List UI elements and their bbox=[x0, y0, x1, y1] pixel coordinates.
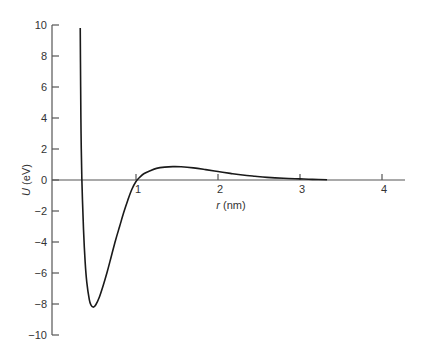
y-tick-label: −8 bbox=[34, 298, 47, 310]
y-tick-label: 6 bbox=[41, 81, 47, 93]
y-tick-label: 0 bbox=[41, 174, 47, 186]
y-tick-label: 8 bbox=[41, 50, 47, 62]
x-tick-label: 3 bbox=[299, 183, 305, 195]
y-tick-label: 10 bbox=[35, 19, 47, 31]
x-axis-label: r (nm) bbox=[216, 199, 245, 211]
x-tick-label: 1 bbox=[135, 183, 141, 195]
y-tick-label: −4 bbox=[34, 236, 47, 248]
x-tick-label: 4 bbox=[381, 183, 387, 195]
y-tick-label: −6 bbox=[34, 267, 47, 279]
y-axis-label: U (eV) bbox=[20, 164, 32, 196]
y-tick-label: 2 bbox=[41, 143, 47, 155]
potential-curve bbox=[80, 28, 327, 307]
y-tick-label: −2 bbox=[34, 205, 47, 217]
y-tick-label: −10 bbox=[28, 329, 47, 341]
y-tick-label: 4 bbox=[41, 112, 47, 124]
potential-energy-chart: 1086420−2−4−6−8−10 1234 U (eV) r (nm) bbox=[0, 0, 427, 355]
x-tick-label: 2 bbox=[217, 183, 223, 195]
